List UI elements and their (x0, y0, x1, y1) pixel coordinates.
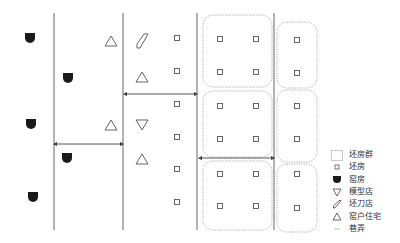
kilns (25, 33, 73, 202)
blank-house-icon (254, 172, 259, 177)
alley-icon (330, 223, 344, 235)
kiln-icon (25, 33, 35, 43)
blank-house-icon (254, 204, 259, 209)
blank-house-icon (218, 104, 223, 109)
legend-label: 模型店 (349, 186, 373, 198)
legend-item-alley: 巷弄 (330, 223, 400, 235)
alley-width-arrows (55, 94, 273, 158)
blank-house-icon (254, 70, 259, 75)
blank-house-icon (175, 36, 180, 41)
kiln-icon (63, 73, 73, 83)
blank-house-icon (175, 102, 180, 107)
legend-item-blank-house-group: 坯房群 (330, 149, 400, 161)
blank-house-icon (330, 161, 344, 173)
kiln-icon (28, 192, 38, 202)
legend-item-knife-shop: 坯刀店 (330, 198, 400, 210)
residences (105, 36, 148, 164)
blank-house-icon (254, 137, 259, 142)
blank-house-group (203, 15, 272, 87)
residence-icon (136, 72, 148, 82)
blank-house-icon (218, 37, 223, 42)
knife-shop-icon (330, 198, 344, 210)
legend-label: 坯房 (349, 161, 365, 173)
blank-house-group (277, 164, 317, 232)
mold-shops (136, 120, 148, 130)
residence-icon (330, 211, 344, 223)
blank-house-group (277, 90, 317, 162)
blank-house-icon (295, 104, 300, 109)
knife-shops (137, 34, 148, 48)
mold-shop-icon (330, 186, 344, 198)
legend-label: 坯房群 (349, 149, 373, 161)
blank-house-icon (175, 167, 180, 172)
knife-shop-icon (137, 34, 148, 48)
blank-house-icon (295, 172, 300, 177)
kiln-icon (330, 174, 344, 186)
legend-label: 窑户住宅 (349, 211, 381, 223)
blank-house-icon (295, 71, 300, 76)
mold-shop-icon (136, 120, 148, 130)
blank-house-icon (175, 135, 180, 140)
blank-house-icon (254, 37, 259, 42)
legend: 坯房群 坯房 窑房 模型店 坯刀店 窑户住宅 巷弄 (330, 149, 400, 235)
alleys (54, 13, 274, 230)
blank-house-group (277, 22, 317, 88)
residence-icon (105, 120, 117, 130)
legend-item-blank-house: 坯房 (330, 161, 400, 173)
blank-house-group (203, 91, 272, 157)
blank-house-icon (175, 69, 180, 74)
blank-house-icon (175, 200, 180, 205)
residence-icon (136, 154, 148, 164)
blank-house-icon (218, 70, 223, 75)
legend-label: 坯刀店 (349, 198, 373, 210)
blank-house-group-icon (330, 149, 344, 161)
blank-house-icon (218, 204, 223, 209)
blank-house-icon (295, 38, 300, 43)
blank-house-icon (295, 206, 300, 211)
legend-item-kiln: 窑房 (330, 174, 400, 186)
legend-item-mold-shop: 模型店 (330, 186, 400, 198)
blank-house-groups (203, 15, 317, 232)
legend-item-residence: 窑户住宅 (330, 210, 400, 222)
residence-icon (105, 36, 117, 46)
legend-label: 窑房 (349, 174, 365, 186)
kiln-icon (62, 153, 72, 163)
blank-house-group (203, 161, 272, 230)
kiln-icon (26, 119, 36, 129)
blank-house-icon (218, 137, 223, 142)
blank-house-icon (295, 137, 300, 142)
blank-house-icon (254, 104, 259, 109)
legend-label: 巷弄 (349, 223, 365, 235)
blank-houses (175, 36, 300, 211)
blank-house-icon (218, 172, 223, 177)
